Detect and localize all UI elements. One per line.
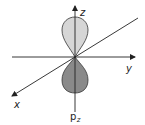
z-axis-label: z bbox=[79, 7, 86, 18]
orbital-label: pz bbox=[70, 111, 81, 124]
orbital-label-sub: z bbox=[76, 116, 81, 124]
orbital-label-main: p bbox=[70, 111, 76, 122]
x-axis-label: x bbox=[13, 99, 20, 110]
y-axis-label: y bbox=[125, 63, 133, 74]
pz-orbital-diagram: z y x pz bbox=[0, 0, 145, 125]
